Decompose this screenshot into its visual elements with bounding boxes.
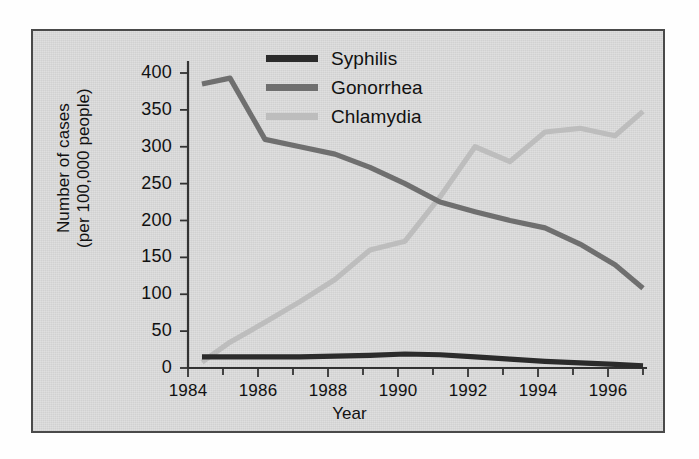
x-axis-tick-label: 1996	[578, 381, 638, 401]
legend-swatch	[266, 113, 318, 120]
x-axis-tick-label: 1986	[228, 381, 288, 401]
x-axis-title: Year	[0, 404, 699, 424]
series-line-syphilis	[202, 354, 643, 366]
y-axis-tick-label: 400	[120, 62, 172, 83]
y-axis-tick-label: 100	[120, 283, 172, 304]
y-axis-tick-label: 250	[120, 173, 172, 194]
x-axis-tick-label: 1984	[158, 381, 218, 401]
x-axis-tick-label: 1994	[508, 381, 568, 401]
legend-item: Syphilis	[266, 44, 423, 73]
y-axis-tick-label: 50	[120, 320, 172, 341]
legend-label: Chlamydia	[331, 106, 422, 128]
y-axis-tick-label: 200	[120, 210, 172, 231]
legend-swatch	[266, 55, 318, 62]
legend-swatch	[266, 84, 318, 91]
y-axis-title-line1: Number of cases	[54, 48, 74, 288]
x-axis-tick-label: 1988	[298, 381, 358, 401]
legend-label: Syphilis	[331, 48, 397, 70]
chart-legend: SyphilisGonorrheaChlamydia	[266, 44, 423, 131]
y-axis-tick-label: 150	[120, 246, 172, 267]
y-axis-tick-label: 300	[120, 136, 172, 157]
y-axis-tick-label: 350	[120, 99, 172, 120]
x-axis-tick-label: 1992	[438, 381, 498, 401]
legend-label: Gonorrhea	[331, 77, 423, 99]
y-axis-tick-label: 0	[120, 357, 172, 378]
y-axis-title: Number of cases (per 100,000 people)	[54, 48, 94, 288]
x-axis-tick-label: 1990	[368, 381, 428, 401]
figure-root: Number of cases (per 100,000 people) Yea…	[0, 0, 699, 459]
plot-area: Number of cases (per 100,000 people) Yea…	[0, 0, 699, 459]
legend-item: Chlamydia	[266, 102, 423, 131]
series-line-chlamydia	[202, 111, 643, 362]
y-axis-title-line2: (per 100,000 people)	[74, 48, 94, 288]
legend-item: Gonorrhea	[266, 73, 423, 102]
